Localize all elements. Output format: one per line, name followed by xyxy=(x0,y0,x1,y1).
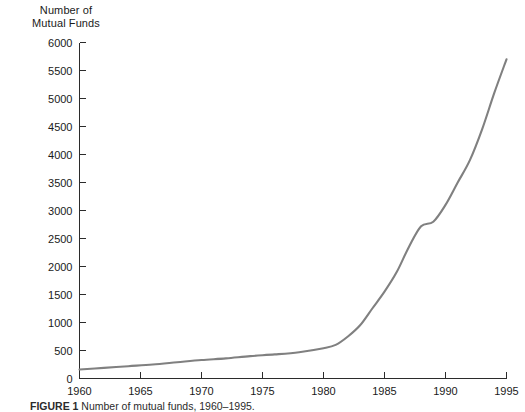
y-tick-label: 4500 xyxy=(48,121,72,133)
x-tick-label: 1975 xyxy=(250,385,274,397)
y-tick-label: 2500 xyxy=(48,233,72,245)
y-tick-label: 2000 xyxy=(48,261,72,273)
y-tick-label: 6000 xyxy=(48,37,72,49)
x-tick-label: 1970 xyxy=(189,385,213,397)
y-tick-label: 1500 xyxy=(48,289,72,301)
x-axis-ticks: 19601965197019751980198519901995 xyxy=(67,372,518,397)
x-tick-label: 1995 xyxy=(494,385,518,397)
x-tick-label: 1990 xyxy=(433,385,457,397)
x-tick-label: 1985 xyxy=(372,385,396,397)
y-tick-label: 1000 xyxy=(48,317,72,329)
y-tick-label: 500 xyxy=(54,345,72,357)
figure-caption: FIGURE 1 Number of mutual funds, 1960–19… xyxy=(30,400,500,412)
y-tick-label: 0 xyxy=(66,373,72,385)
y-tick-label: 3000 xyxy=(48,205,72,217)
x-tick-label: 1980 xyxy=(311,385,335,397)
figure-caption-text: Number of mutual funds, 1960–1995. xyxy=(81,400,254,412)
y-tick-label: 4000 xyxy=(48,149,72,161)
x-tick-label: 1960 xyxy=(67,385,91,397)
x-tick-label: 1965 xyxy=(128,385,152,397)
data-series-line xyxy=(80,59,507,369)
y-tick-label: 5500 xyxy=(48,65,72,77)
y-tick-label: 3500 xyxy=(48,177,72,189)
y-tick-label: 5000 xyxy=(48,93,72,105)
figure-caption-label: FIGURE 1 xyxy=(30,400,78,412)
